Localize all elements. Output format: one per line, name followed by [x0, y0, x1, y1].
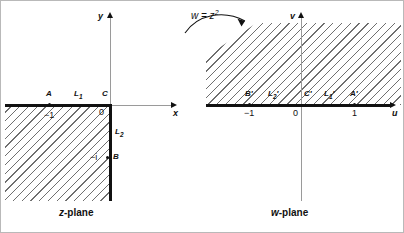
w-axis-v-line: [301, 15, 302, 201]
w-axis-v-arrowhead: [298, 12, 304, 18]
w-tick-one-label: 1: [352, 109, 357, 118]
w-point-A-prime-label: A′: [350, 90, 358, 98]
w-boundary-u-axis: [206, 104, 391, 107]
w-axis-u-label: u: [392, 109, 398, 118]
w-plane-caption: w-plane: [271, 207, 308, 218]
w-segment-L1-prime-label: L1′: [324, 90, 334, 100]
w-tick-minus-one-label: −1: [244, 109, 254, 118]
w-point-C-prime-label: C′: [304, 90, 312, 98]
figure-container: y x A B C −1 0 −i L1 L2 z-plane w = z2: [0, 0, 404, 233]
w-plane-diagram: v u B′ C′ A′ L2′ L1′ −1 0 1 w-plane: [1, 1, 403, 232]
w-point-B-prime-label: B′: [245, 90, 253, 98]
w-segment-L2-prime-label: L2′: [268, 90, 278, 100]
w-axis-v-label: v: [290, 12, 295, 21]
w-origin-label: 0: [293, 109, 298, 118]
